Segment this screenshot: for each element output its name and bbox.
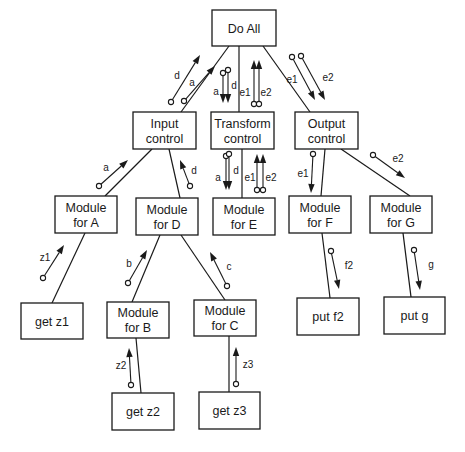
data-couple-circle-icon: [96, 183, 101, 188]
data-flow-e1: e1: [244, 154, 260, 193]
data-flow-b: b: [125, 250, 147, 286]
data-flow-label: z3: [243, 359, 254, 370]
data-couple-circle-icon: [40, 275, 45, 280]
module-input-control: Inputcontrol: [133, 112, 196, 149]
module-do-all: Do All: [212, 10, 276, 46]
module-label: Module: [205, 304, 246, 318]
data-flow-z2: z2: [116, 348, 134, 388]
data-flow-d: d: [180, 160, 197, 189]
data-flow-z1: z1: [40, 245, 64, 281]
arrowhead-icon: [256, 60, 262, 69]
data-flow-a: a: [96, 160, 128, 189]
arrowhead-icon: [220, 94, 226, 103]
arrowhead-icon: [193, 55, 200, 64]
data-flow-label: a: [103, 162, 109, 173]
arrowhead-icon: [126, 348, 132, 357]
module-label: get z3: [212, 404, 246, 418]
module-transform-control: Transformcontrol: [211, 112, 274, 149]
data-flow-label: g: [428, 259, 434, 270]
module-label: Transform: [214, 117, 271, 131]
data-couple-circle-icon: [187, 183, 192, 188]
module-label: for F: [307, 216, 333, 230]
connection-input-control-to-module-a: [105, 149, 152, 196]
structure-chart: daade1e2e1e2adade1e2e1e2z1bcf2gz2z3 Do A…: [0, 0, 465, 452]
data-couple-circle-icon: [254, 187, 259, 192]
data-flow-label: c: [227, 261, 232, 272]
module-label: Module: [66, 201, 107, 215]
module-label: Output: [308, 117, 346, 131]
data-couple-circle-icon: [256, 101, 261, 106]
module-get-z2: get z2: [112, 393, 174, 430]
flow-shaft: [183, 168, 189, 183]
data-flow-d: d: [168, 55, 200, 105]
module-label: Module: [118, 306, 159, 320]
data-flow-label: f2: [345, 260, 354, 271]
module-label: for E: [231, 218, 257, 232]
data-couple-circle-icon: [260, 187, 265, 192]
connection-module-d-to-module-c: [181, 235, 225, 300]
data-couple-circle-icon: [411, 247, 416, 252]
connection-module-g-to-put-g: [403, 233, 411, 297]
data-flow-label: d: [233, 165, 239, 176]
arrowhead-icon: [251, 60, 257, 69]
connection-input-control-to-module-d: [169, 149, 180, 198]
module-label: get z1: [35, 315, 69, 329]
connection-module-b-to-get-z2: [136, 338, 141, 393]
data-couple-circle-icon: [128, 382, 133, 387]
arrowhead-icon: [260, 154, 266, 163]
module-label: for B: [125, 321, 151, 335]
data-flow-f2: f2: [328, 248, 353, 289]
data-flow-label: d: [231, 80, 237, 91]
module-put-g: put g: [384, 297, 445, 334]
data-couple-circle-icon: [310, 151, 315, 156]
data-flow-e1: e1: [297, 151, 315, 193]
data-flow-label: z1: [40, 252, 51, 263]
module-module-d: Modulefor D: [136, 198, 198, 235]
data-flow-label: e2: [322, 72, 334, 83]
data-couple-circle-icon: [225, 67, 230, 72]
module-label: Module: [147, 203, 188, 217]
module-label: for A: [73, 216, 99, 230]
data-flow-label: e2: [260, 87, 272, 98]
data-flow-d: d: [225, 67, 237, 103]
data-couple-circle-icon: [168, 99, 173, 104]
data-flow-a: a: [213, 70, 226, 103]
data-flow-label: e1: [297, 168, 309, 179]
arrowhead-icon: [318, 91, 325, 100]
data-couple-circle-icon: [233, 381, 238, 386]
connection-output-control-to-module-f: [321, 149, 325, 196]
data-flow-label: e1: [239, 87, 251, 98]
module-label: for D: [153, 218, 180, 232]
module-label: put g: [401, 309, 429, 323]
module-label: for C: [211, 319, 238, 333]
data-couple-circle-icon: [125, 280, 130, 285]
data-couple-circle-icon: [226, 151, 231, 156]
data-couple-circle-icon: [220, 70, 225, 75]
data-flow-label: z2: [116, 360, 127, 371]
module-label: Module: [300, 201, 341, 215]
arrowhead-icon: [56, 245, 64, 254]
module-label: Input: [151, 117, 179, 131]
module-label: control: [224, 132, 262, 146]
data-flow-label: e1: [244, 172, 256, 183]
arrowhead-icon: [180, 160, 186, 170]
data-flow-g: g: [411, 247, 433, 290]
data-couple-circle-icon: [224, 283, 229, 288]
connection-module-a-to-get-z1: [52, 233, 85, 303]
data-flow-e2: e2: [256, 60, 272, 107]
modules: Do AllInputcontrolTransformcontrolOutput…: [21, 10, 445, 430]
module-label: Module: [381, 201, 422, 215]
data-flow-label: e2: [392, 153, 404, 164]
data-couple-circle-icon: [251, 101, 256, 106]
data-flow-z3: z3: [233, 347, 254, 387]
data-flow-label: a: [213, 86, 219, 97]
flow-shaft: [214, 260, 226, 284]
data-flow-a: a: [181, 66, 215, 104]
data-flow-label: d: [191, 165, 197, 176]
arrowhead-icon: [334, 280, 340, 289]
data-flow-label: e1: [286, 74, 298, 85]
module-label: for G: [387, 216, 415, 230]
connection-do-all-to-input-control: [181, 46, 229, 112]
data-couple-circle-icon: [328, 248, 333, 253]
module-label: control: [146, 132, 184, 146]
